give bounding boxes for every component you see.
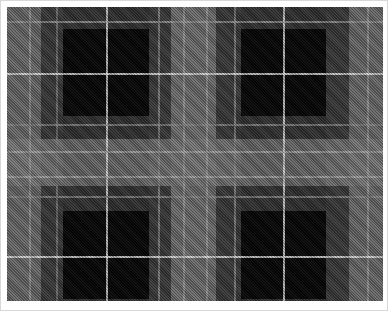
- horizontal-line: [7, 256, 383, 258]
- horizontal-lines: [7, 7, 383, 301]
- horizontal-line: [7, 196, 383, 198]
- image-frame: [0, 0, 388, 311]
- horizontal-line: [7, 73, 383, 75]
- tartan-plaid-pattern: [7, 7, 383, 301]
- horizontal-line: [7, 151, 383, 153]
- horizontal-line: [7, 21, 383, 23]
- horizontal-line: [7, 124, 383, 126]
- horizontal-line: [7, 176, 383, 178]
